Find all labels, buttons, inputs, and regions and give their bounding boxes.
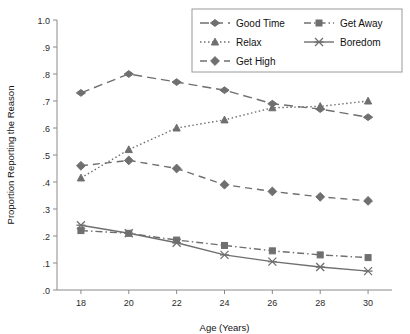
data-point-marker [124, 71, 133, 78]
y-tick-label: .7 [42, 97, 50, 107]
data-point-marker [172, 164, 181, 173]
data-point-marker [269, 248, 275, 254]
data-point-marker [364, 197, 373, 206]
chart-container: .0.1.2.3.4.5.6.7.8.91.018202224262830Age… [0, 0, 410, 334]
data-point-marker [76, 90, 85, 97]
data-point-marker [316, 192, 325, 201]
data-point-marker [268, 258, 277, 266]
data-point-marker [172, 79, 181, 86]
y-tick-label: .0 [42, 286, 50, 296]
x-tick-label: 30 [363, 298, 373, 308]
legend-item-label: Relax [236, 37, 262, 48]
data-point-marker [317, 252, 323, 258]
y-tick-label: .8 [42, 70, 50, 80]
y-tick-label: .4 [42, 178, 50, 188]
x-tick-label: 18 [76, 298, 86, 308]
x-tick-label: 24 [219, 298, 229, 308]
data-point-marker [220, 251, 229, 259]
x-tick-label: 26 [267, 298, 277, 308]
series-good-time [76, 71, 372, 121]
data-point-marker [365, 255, 371, 261]
x-tick-label: 28 [315, 298, 325, 308]
data-point-marker [222, 242, 228, 248]
y-tick-label: .9 [42, 43, 50, 53]
line-chart: .0.1.2.3.4.5.6.7.8.91.018202224262830Age… [0, 0, 410, 334]
y-axis-title: Proportion Reporting the Reason [5, 86, 16, 225]
data-point-marker [77, 174, 84, 181]
data-point-marker [77, 161, 86, 170]
y-tick-label: 1.0 [37, 16, 50, 26]
y-tick-label: .6 [42, 124, 50, 134]
data-point-marker [173, 124, 180, 131]
y-tick-label: .2 [42, 232, 50, 242]
series-line [81, 74, 368, 117]
legend-item-label: Get Away [340, 18, 383, 29]
y-tick-label: .1 [42, 259, 50, 269]
x-tick-label: 22 [172, 298, 182, 308]
legend-item-label: Get High [236, 56, 275, 67]
legend-sample-marker [316, 20, 322, 26]
data-point-marker [125, 146, 132, 153]
legend-item-boredom[interactable]: Boredom [304, 37, 381, 48]
data-point-marker [221, 116, 228, 123]
data-point-marker [268, 187, 277, 196]
data-point-marker [220, 87, 229, 94]
legend-item-label: Good Time [236, 18, 285, 29]
x-axis-title: Age (Years) [200, 322, 250, 333]
series-line [81, 101, 368, 178]
x-tick-label: 20 [124, 298, 134, 308]
data-point-marker [364, 267, 373, 275]
data-point-marker [124, 156, 133, 165]
data-point-marker [78, 228, 84, 234]
data-point-marker [220, 180, 229, 189]
legend-item-label: Boredom [340, 37, 381, 48]
data-point-marker [363, 114, 372, 121]
data-point-marker [364, 97, 371, 104]
legend: Good TimeGet AwayRelaxBoredomGet High [192, 9, 402, 72]
series-get-high [77, 156, 373, 205]
data-point-marker [316, 263, 325, 271]
y-tick-label: .5 [42, 151, 50, 161]
y-tick-label: .3 [42, 205, 50, 215]
